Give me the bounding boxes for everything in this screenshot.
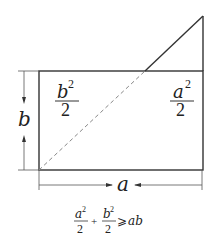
region-left-var: b — [57, 81, 69, 102]
region-label-right: a 2 2 — [170, 77, 194, 120]
arrow-left-icon — [134, 183, 141, 187]
side-label-a: a — [117, 172, 129, 196]
formula-rhs: ab — [128, 214, 143, 228]
formula-plus: + — [91, 215, 97, 227]
arrow-down-icon — [22, 97, 26, 104]
triangle-hypotenuse — [145, 16, 203, 71]
inequality-diagram: b a b 2 2 a 2 2 a 2 2 + b 2 2 ⩾ ab — [0, 0, 214, 244]
region-right-var: a — [173, 81, 184, 102]
dashed-diagonal — [39, 71, 145, 170]
inequality-formula: a 2 2 + b 2 2 ⩾ ab — [74, 205, 143, 236]
formula-relation: ⩾ — [117, 214, 127, 228]
region-label-left: b 2 2 — [55, 77, 79, 120]
region-right-den: 2 — [176, 100, 185, 120]
region-left-den: 2 — [61, 100, 70, 120]
region-left-exp: 2 — [68, 77, 74, 91]
formula-term1-exp: 2 — [82, 205, 86, 214]
formula-term2-den: 2 — [105, 222, 111, 236]
formula-term2-exp: 2 — [110, 205, 114, 214]
region-right-exp: 2 — [185, 77, 191, 91]
side-label-b: b — [18, 107, 31, 131]
arrow-right-icon — [106, 183, 113, 187]
formula-term1-den: 2 — [77, 222, 83, 236]
arrow-up-icon — [22, 135, 26, 142]
